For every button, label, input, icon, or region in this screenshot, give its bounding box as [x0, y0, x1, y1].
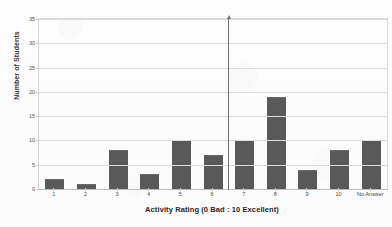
bar-slot [71, 19, 103, 189]
bar-chart: Number of Students 05101520253035 123456… [0, 0, 392, 227]
x-axis-tick-label: No Answer [354, 191, 386, 197]
y-tick-mark [36, 92, 39, 93]
y-axis-tick-label: 10 [29, 137, 35, 143]
x-axis-tick-label: 3 [101, 191, 133, 197]
gridline [39, 92, 387, 93]
y-tick-mark [36, 43, 39, 44]
x-axis-tick-label: 1 [38, 191, 70, 197]
bar[interactable] [204, 155, 223, 189]
bar-slot [134, 19, 166, 189]
y-axis-tick-label: 0 [32, 186, 35, 192]
gridline [39, 165, 387, 166]
y-tick-mark [36, 68, 39, 69]
y-axis-title: Number of Students [13, 6, 20, 126]
bar-slot [324, 19, 356, 189]
gridline [39, 140, 387, 141]
gridline [39, 19, 387, 20]
bar-slot [229, 19, 261, 189]
y-axis-tick-label: 15 [29, 113, 35, 119]
x-axis-tick-label: 8 [259, 191, 291, 197]
y-axis-tick-label: 30 [29, 40, 35, 46]
x-axis-tick-labels: 12345678910No Answer [38, 191, 386, 197]
x-axis-tick-label: 5 [165, 191, 197, 197]
y-axis-tick-label: 5 [32, 162, 35, 168]
x-axis-tick-label: 4 [133, 191, 165, 197]
x-axis-tick-label: 10 [323, 191, 355, 197]
x-axis-tick-label: 7 [228, 191, 260, 197]
bar-slot [166, 19, 198, 189]
bar-slot [39, 19, 71, 189]
x-axis-tick-label: 9 [291, 191, 323, 197]
bar-slot [355, 19, 387, 189]
y-tick-mark [36, 19, 39, 20]
y-axis-tick-label: 25 [29, 65, 35, 71]
y-tick-mark [36, 140, 39, 141]
bar-slot [102, 19, 134, 189]
y-tick-mark [36, 165, 39, 166]
x-axis-tick-label: 2 [70, 191, 102, 197]
bar-slot [260, 19, 292, 189]
bar-slot [292, 19, 324, 189]
gridline [39, 68, 387, 69]
gridline [39, 116, 387, 117]
y-axis-tick-label: 20 [29, 89, 35, 95]
y-tick-mark [36, 116, 39, 117]
plot-area: 05101520253035 [38, 18, 388, 190]
vertical-marker-arrow [228, 18, 230, 190]
bar[interactable] [109, 150, 128, 189]
gridline [39, 43, 387, 44]
bar[interactable] [267, 97, 286, 189]
bar[interactable] [140, 174, 159, 189]
y-axis-tick-label: 35 [29, 16, 35, 22]
x-axis-tick-label: 6 [196, 191, 228, 197]
bar[interactable] [298, 170, 317, 189]
bar[interactable] [330, 150, 349, 189]
bar-slot [197, 19, 229, 189]
x-axis-title: Activity Rating (0 Bad : 10 Excellent) [38, 205, 386, 214]
bar-series [39, 19, 387, 189]
